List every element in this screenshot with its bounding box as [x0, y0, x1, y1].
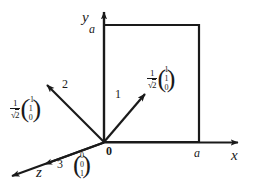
paren-right-icon: )	[167, 68, 176, 91]
z-axis-label: z	[36, 165, 42, 180]
vector-1-expression: 1 √2 ( 1 1 0 )	[147, 66, 174, 93]
vector-3-expression: ( 0 0 1 )	[74, 152, 90, 179]
paren-left-icon: (	[20, 98, 29, 121]
vector-1-arrow	[104, 94, 145, 142]
figure-canvas: y x z a a 0 1 1 √2 ( 1 1 0 ) 2 1 √2	[0, 0, 256, 189]
vector-2-arrow	[47, 85, 104, 142]
vector-1-scalar: 1 √2	[147, 69, 157, 91]
paren-left-icon: (	[73, 154, 82, 177]
vector-3-column: ( 0 0 1 )	[74, 152, 90, 179]
vector-1-column: ( 1 1 0 )	[158, 66, 174, 93]
vector-2-column: ( -1 1 0 )	[21, 96, 40, 123]
vector-1-number: 1	[115, 88, 121, 100]
paren-left-icon: (	[157, 68, 166, 91]
vector-2-number: 2	[62, 78, 68, 90]
paren-right-icon: )	[82, 154, 91, 177]
origin-label: 0	[106, 145, 112, 157]
x-axis-tick-a: a	[194, 147, 200, 159]
vector-2-sqrt: √2	[10, 108, 20, 120]
vector-1-sqrt: √2	[147, 78, 157, 90]
vector-3-number: 3	[57, 158, 63, 170]
vector-2-expression: 1 √2 ( -1 1 0 )	[10, 96, 40, 123]
y-axis-tick-a: a	[89, 23, 95, 35]
paren-right-icon: )	[32, 98, 41, 121]
x-axis-label: x	[231, 148, 238, 163]
y-axis-label: y	[82, 10, 89, 25]
vector-2-scalar: 1 √2	[10, 99, 20, 121]
